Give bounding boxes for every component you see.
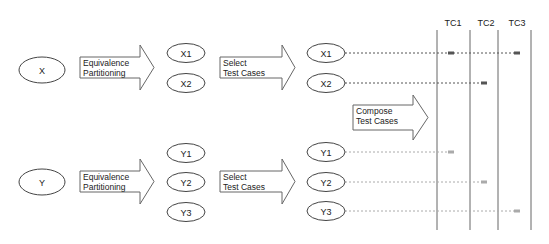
svg-text:Test Cases: Test Cases — [356, 116, 398, 126]
svg-text:Y2: Y2 — [180, 178, 191, 188]
test-case-label: TC1 — [444, 18, 461, 28]
svg-text:X1: X1 — [320, 49, 331, 59]
test-case-label: TC3 — [508, 18, 525, 28]
svg-text:Equivalence: Equivalence — [83, 172, 130, 182]
process-arrow-compose: ComposeTest Cases — [353, 95, 428, 140]
partition-node: X1 — [167, 44, 205, 63]
svg-text:Y3: Y3 — [320, 207, 331, 217]
partition-node: X2 — [167, 74, 205, 93]
svg-text:Compose: Compose — [356, 106, 393, 116]
assignment-marker — [481, 82, 487, 85]
partition-node: Y3 — [167, 203, 205, 222]
process-arrow-ep-x: EquivalencePartitioning — [80, 45, 154, 90]
selected-partition-node: Y1 — [307, 143, 345, 162]
input-x-node: X — [19, 57, 65, 83]
diagram-svg: TC1TC2TC3XYX1X2Y1Y2Y3X1X2Y1Y2Y3Equivalen… — [0, 0, 549, 244]
process-arrow-sel-y: SelectTest Cases — [220, 159, 295, 204]
test-case-design-diagram: TC1TC2TC3XYX1X2Y1Y2Y3X1X2Y1Y2Y3Equivalen… — [0, 0, 549, 244]
selected-partition-node: Y3 — [307, 202, 345, 221]
svg-text:X: X — [39, 66, 45, 76]
assignment-marker — [448, 151, 454, 154]
svg-text:Select: Select — [223, 58, 247, 68]
assignment-marker — [481, 181, 487, 184]
svg-text:Partitioning: Partitioning — [83, 182, 126, 192]
partition-node: Y1 — [167, 144, 205, 163]
svg-text:X1: X1 — [180, 49, 191, 59]
svg-text:Test Cases: Test Cases — [223, 68, 265, 78]
svg-text:Y2: Y2 — [320, 178, 331, 188]
svg-text:Equivalence: Equivalence — [83, 58, 130, 68]
process-arrow-ep-y: EquivalencePartitioning — [80, 159, 154, 204]
selected-partition-node: Y2 — [307, 173, 345, 192]
svg-text:X2: X2 — [180, 79, 191, 89]
svg-text:Y1: Y1 — [180, 149, 191, 159]
svg-text:Y1: Y1 — [320, 148, 331, 158]
assignment-marker — [448, 52, 454, 55]
selected-partition-node: X2 — [307, 74, 345, 93]
input-y-node: Y — [19, 169, 65, 195]
test-case-label: TC2 — [477, 18, 494, 28]
partition-node: Y2 — [167, 173, 205, 192]
svg-text:X2: X2 — [320, 79, 331, 89]
selected-partition-node: X1 — [307, 44, 345, 63]
svg-text:Test Cases: Test Cases — [223, 182, 265, 192]
assignment-marker — [514, 52, 520, 55]
svg-text:Y: Y — [39, 178, 45, 188]
svg-text:Y3: Y3 — [180, 208, 191, 218]
process-arrow-sel-x: SelectTest Cases — [220, 45, 295, 90]
svg-text:Select: Select — [223, 172, 247, 182]
svg-text:Partitioning: Partitioning — [83, 68, 126, 78]
assignment-marker — [514, 210, 520, 213]
